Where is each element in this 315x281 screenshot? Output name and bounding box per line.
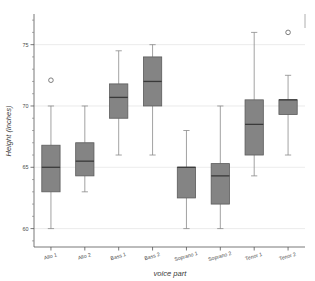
- y-tick-label-65: 65: [23, 164, 29, 170]
- y-tick-label-60: 60: [23, 226, 29, 232]
- y-tick-label-75: 75: [23, 42, 29, 48]
- box-body: [42, 145, 60, 192]
- box-body: [211, 164, 229, 204]
- box-body: [279, 100, 297, 115]
- box-body: [76, 143, 94, 176]
- y-axis-title: Height (inches): [4, 105, 13, 157]
- box-body: [245, 100, 263, 155]
- figure-background: [0, 0, 315, 281]
- box-body: [110, 84, 128, 118]
- y-tick-label-70: 70: [23, 103, 29, 109]
- box-body: [177, 167, 195, 198]
- boxplot-figure: 60657075 Alto 1Alto 2Bass 1Bass 2Soprano…: [0, 0, 315, 281]
- x-axis-title: voice part: [154, 269, 188, 278]
- boxplot-canvas: 60657075 Alto 1Alto 2Bass 1Bass 2Soprano…: [0, 0, 315, 281]
